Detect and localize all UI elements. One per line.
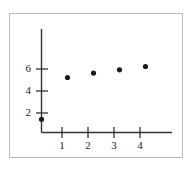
y-axis-tick-label: 2 <box>17 107 31 118</box>
y-axis-tick-label: 6 <box>17 63 31 74</box>
data-point <box>117 67 122 72</box>
x-axis-tick-label: 3 <box>107 140 121 151</box>
data-point <box>143 64 148 69</box>
x-axis-tick-label: 4 <box>133 140 147 151</box>
scatter-plot-figure: 6 4 2 1 2 3 4 <box>0 0 193 171</box>
data-point <box>65 75 70 80</box>
data-point <box>91 71 96 76</box>
x-axis-tick-label: 1 <box>55 140 69 151</box>
x-axis-tick-label: 2 <box>81 140 95 151</box>
y-axis-tick-label: 4 <box>17 85 31 96</box>
data-point <box>39 117 44 122</box>
